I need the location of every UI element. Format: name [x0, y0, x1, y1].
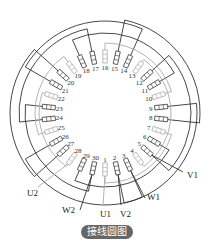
lead-line: [80, 175, 92, 210]
winding-diagram: 1234567891011121314151617181920212223242…: [0, 0, 211, 241]
lead-label: W1: [147, 192, 160, 202]
lead-line: [103, 176, 105, 205]
slot-box: [42, 116, 55, 122]
slot-box: [90, 51, 97, 65]
slot-16: 16: [102, 50, 110, 72]
slot-5: 5: [137, 140, 153, 157]
slot-15: 15: [111, 51, 120, 73]
slot-number: 25: [58, 124, 66, 132]
slot-6: 6: [143, 133, 161, 147]
slot-number: 17: [92, 65, 100, 73]
slot-box: [133, 152, 144, 165]
slot-number: 24: [56, 114, 64, 122]
slot-26: 26: [49, 133, 69, 147]
slot-number: 1: [103, 156, 107, 164]
slot-box: [152, 91, 166, 99]
slot-box: [44, 91, 58, 99]
slot-box: [123, 55, 132, 69]
slot-box: [147, 136, 160, 146]
slot-number: 30: [92, 154, 100, 162]
slot-1: 1: [103, 156, 107, 177]
slot-number: 21: [62, 87, 70, 95]
slot-24: 24: [42, 114, 63, 122]
slot-number: 6: [143, 133, 147, 141]
slot-box: [113, 51, 120, 65]
slot-box: [42, 104, 55, 110]
lead-label: V1: [187, 170, 198, 180]
slot-box: [77, 158, 86, 172]
slot-2: 2: [113, 154, 120, 175]
slot-box: [77, 55, 86, 69]
lead-v1: V1: [152, 155, 198, 180]
slot-box: [141, 145, 154, 157]
slot-number: 22: [58, 95, 66, 103]
diagram-caption: 接线圆图: [81, 225, 133, 239]
slot-box: [44, 126, 58, 134]
slot-number: 28: [74, 147, 82, 155]
slot-number: 13: [129, 72, 137, 80]
slot-box: [152, 126, 166, 134]
slot-number: 8: [149, 114, 153, 122]
slot-number: 29: [83, 152, 91, 160]
slot-number: 23: [56, 105, 64, 113]
slot-number: 16: [102, 64, 110, 72]
slot-10: 10: [145, 91, 165, 103]
lead-label: U1: [100, 209, 111, 219]
slot-layer: 1234567891011121314151617181920212223242…: [42, 50, 168, 176]
lead-w2: W2: [62, 175, 92, 215]
slot-number: 3: [122, 152, 126, 160]
slot-box: [103, 163, 107, 176]
slot-7: 7: [147, 124, 166, 135]
slot-box: [103, 50, 107, 63]
slot-number: 10: [145, 95, 153, 103]
slot-box: [154, 104, 167, 110]
slot-number: 7: [147, 124, 151, 132]
slot-21: 21: [49, 80, 69, 95]
slot-number: 4: [130, 147, 134, 155]
slot-9: 9: [149, 104, 168, 112]
slot-30: 30: [90, 154, 100, 175]
lead-line: [118, 175, 121, 205]
slot-28: 28: [66, 147, 82, 166]
slot-8: 8: [149, 114, 168, 122]
slot-17: 17: [90, 51, 100, 73]
slot-number: 12: [136, 79, 144, 87]
lead-line: [38, 164, 68, 187]
slot-box: [147, 80, 160, 90]
slot-number: 14: [120, 67, 128, 75]
slot-number: 5: [137, 140, 141, 148]
slot-number: 15: [111, 65, 119, 73]
lead-label: U2: [27, 188, 38, 198]
slot-number: 18: [83, 67, 91, 75]
slot-box: [90, 161, 97, 175]
slot-number: 19: [74, 72, 82, 80]
slot-23: 23: [42, 104, 63, 112]
slot-number: 2: [113, 154, 117, 162]
slot-box: [123, 158, 132, 172]
slot-number: 9: [149, 105, 153, 113]
slot-box: [113, 161, 120, 175]
lead-label: W2: [62, 205, 75, 215]
slot-11: 11: [141, 80, 160, 95]
slot-box: [154, 116, 167, 122]
lead-label: V2: [120, 209, 131, 219]
slot-number: 11: [141, 87, 148, 95]
